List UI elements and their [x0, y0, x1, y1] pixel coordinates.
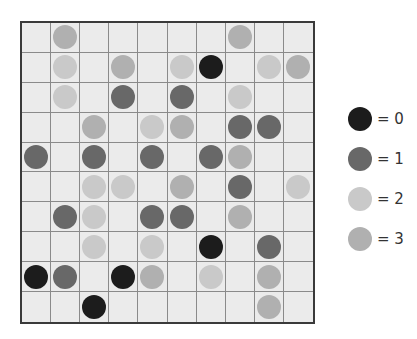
grid-cell-r6-c2[interactable]	[80, 202, 109, 232]
grid-cell-r6-c6[interactable]	[197, 202, 226, 232]
grid-cell-r6-c7[interactable]	[226, 202, 255, 232]
grid-cell-r1-c4[interactable]	[138, 53, 167, 83]
grid-cell-r1-c1[interactable]	[51, 53, 80, 83]
grid-cell-r4-c1[interactable]	[51, 143, 80, 173]
grid-cell-r1-c7[interactable]	[226, 53, 255, 83]
grid-cell-r5-c9[interactable]	[284, 172, 313, 202]
grid-cell-r2-c7[interactable]	[226, 83, 255, 113]
grid-cell-r0-c4[interactable]	[138, 23, 167, 53]
grid-cell-r8-c5[interactable]	[168, 262, 197, 292]
grid-cell-r5-c1[interactable]	[51, 172, 80, 202]
grid-cell-r3-c5[interactable]	[168, 113, 197, 143]
grid-cell-r0-c9[interactable]	[284, 23, 313, 53]
grid-cell-r0-c1[interactable]	[51, 23, 80, 53]
grid-cell-r9-c2[interactable]	[80, 292, 109, 322]
grid-cell-r8-c3[interactable]	[109, 262, 138, 292]
grid-cell-r5-c5[interactable]	[168, 172, 197, 202]
grid-cell-r7-c6[interactable]	[197, 232, 226, 262]
grid-cell-r2-c9[interactable]	[284, 83, 313, 113]
grid-cell-r4-c3[interactable]	[109, 143, 138, 173]
grid-cell-r5-c2[interactable]	[80, 172, 109, 202]
grid-cell-r6-c8[interactable]	[255, 202, 284, 232]
grid-cell-r3-c9[interactable]	[284, 113, 313, 143]
grid-cell-r0-c3[interactable]	[109, 23, 138, 53]
grid-cell-r5-c8[interactable]	[255, 172, 284, 202]
grid-cell-r9-c5[interactable]	[168, 292, 197, 322]
grid-cell-r0-c2[interactable]	[80, 23, 109, 53]
grid-cell-r3-c3[interactable]	[109, 113, 138, 143]
grid-cell-r5-c7[interactable]	[226, 172, 255, 202]
grid-cell-r4-c7[interactable]	[226, 143, 255, 173]
grid-cell-r5-c0[interactable]	[22, 172, 51, 202]
grid-cell-r0-c7[interactable]	[226, 23, 255, 53]
grid-cell-r1-c2[interactable]	[80, 53, 109, 83]
grid-cell-r6-c1[interactable]	[51, 202, 80, 232]
grid-cell-r4-c4[interactable]	[138, 143, 167, 173]
grid-cell-r0-c8[interactable]	[255, 23, 284, 53]
grid-cell-r2-c8[interactable]	[255, 83, 284, 113]
grid-cell-r0-c6[interactable]	[197, 23, 226, 53]
grid-cell-r9-c7[interactable]	[226, 292, 255, 322]
grid-cell-r6-c9[interactable]	[284, 202, 313, 232]
grid-cell-r9-c4[interactable]	[138, 292, 167, 322]
grid-cell-r2-c2[interactable]	[80, 83, 109, 113]
grid-cell-r3-c1[interactable]	[51, 113, 80, 143]
grid-cell-r2-c6[interactable]	[197, 83, 226, 113]
grid-cell-r3-c0[interactable]	[22, 113, 51, 143]
grid-cell-r7-c3[interactable]	[109, 232, 138, 262]
grid-cell-r1-c8[interactable]	[255, 53, 284, 83]
grid-cell-r7-c1[interactable]	[51, 232, 80, 262]
grid-cell-r9-c0[interactable]	[22, 292, 51, 322]
grid-cell-r0-c5[interactable]	[168, 23, 197, 53]
grid-cell-r7-c9[interactable]	[284, 232, 313, 262]
grid-cell-r8-c4[interactable]	[138, 262, 167, 292]
grid-cell-r1-c0[interactable]	[22, 53, 51, 83]
grid-cell-r2-c3[interactable]	[109, 83, 138, 113]
grid-cell-r8-c7[interactable]	[226, 262, 255, 292]
grid-cell-r1-c3[interactable]	[109, 53, 138, 83]
grid-cell-r7-c0[interactable]	[22, 232, 51, 262]
grid-cell-r7-c4[interactable]	[138, 232, 167, 262]
grid-cell-r9-c1[interactable]	[51, 292, 80, 322]
grid-cell-r3-c6[interactable]	[197, 113, 226, 143]
grid-cell-r2-c1[interactable]	[51, 83, 80, 113]
grid-cell-r9-c9[interactable]	[284, 292, 313, 322]
grid-cell-r8-c6[interactable]	[197, 262, 226, 292]
grid-cell-r3-c7[interactable]	[226, 113, 255, 143]
grid-cell-r5-c3[interactable]	[109, 172, 138, 202]
grid-cell-r4-c2[interactable]	[80, 143, 109, 173]
grid-cell-r1-c6[interactable]	[197, 53, 226, 83]
grid-cell-r6-c3[interactable]	[109, 202, 138, 232]
grid-cell-r8-c0[interactable]	[22, 262, 51, 292]
grid-cell-r7-c5[interactable]	[168, 232, 197, 262]
grid-cell-r7-c2[interactable]	[80, 232, 109, 262]
grid-cell-r5-c6[interactable]	[197, 172, 226, 202]
grid-cell-r9-c6[interactable]	[197, 292, 226, 322]
grid-cell-r8-c8[interactable]	[255, 262, 284, 292]
grid-cell-r0-c0[interactable]	[22, 23, 51, 53]
grid-cell-r3-c2[interactable]	[80, 113, 109, 143]
grid-cell-r9-c3[interactable]	[109, 292, 138, 322]
grid-cell-r5-c4[interactable]	[138, 172, 167, 202]
grid-cell-r3-c4[interactable]	[138, 113, 167, 143]
grid-cell-r6-c4[interactable]	[138, 202, 167, 232]
grid-cell-r8-c9[interactable]	[284, 262, 313, 292]
grid-cell-r4-c9[interactable]	[284, 143, 313, 173]
grid-cell-r2-c5[interactable]	[168, 83, 197, 113]
grid-cell-r8-c1[interactable]	[51, 262, 80, 292]
grid-cell-r8-c2[interactable]	[80, 262, 109, 292]
grid-cell-r3-c8[interactable]	[255, 113, 284, 143]
grid-cell-r7-c7[interactable]	[226, 232, 255, 262]
grid-cell-r9-c8[interactable]	[255, 292, 284, 322]
grid-cell-r4-c8[interactable]	[255, 143, 284, 173]
grid-cell-r1-c5[interactable]	[168, 53, 197, 83]
grid-cell-r2-c0[interactable]	[22, 83, 51, 113]
grid-cell-r4-c5[interactable]	[168, 143, 197, 173]
grid-cell-r6-c0[interactable]	[22, 202, 51, 232]
grid-cell-r7-c8[interactable]	[255, 232, 284, 262]
grid-cell-r1-c9[interactable]	[284, 53, 313, 83]
grid-cell-r6-c5[interactable]	[168, 202, 197, 232]
grid-cell-r4-c6[interactable]	[197, 143, 226, 173]
grid-cell-r2-c4[interactable]	[138, 83, 167, 113]
grid-cell-r4-c0[interactable]	[22, 143, 51, 173]
